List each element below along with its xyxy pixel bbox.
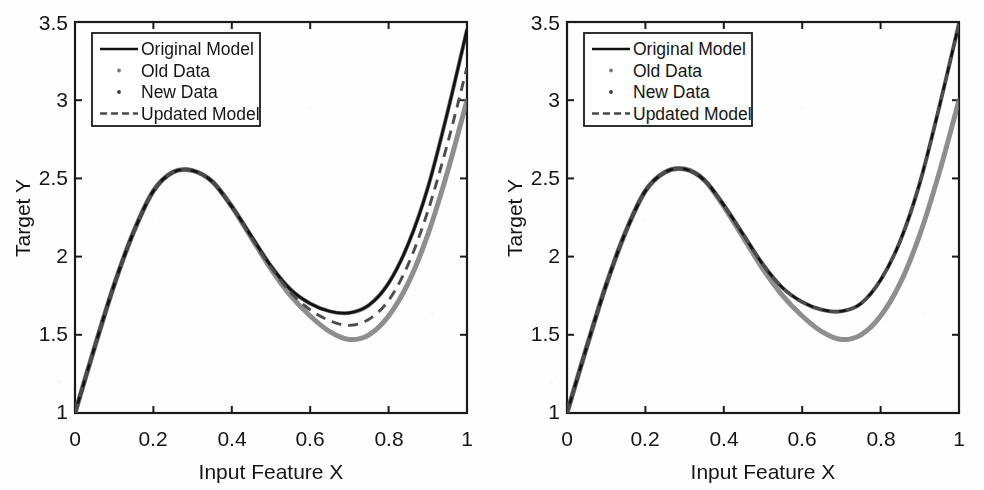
legend-item-label: New Data [633,82,710,102]
y-axis-title: Target Y [503,179,526,257]
figure-container: 3.5 3 2.5 2 1.5 1 0 0.2 0.4 0.6 0.8 1 In… [0,0,984,490]
y-tick-label: 3 [548,88,560,111]
legend-dot-icon [117,90,121,94]
y-tick-label: 1 [56,400,68,423]
x-tick-label: 1 [461,427,473,450]
y-tick-label: 2 [56,244,68,267]
right-panel-legend: Original ModelOld DataNew DataUpdated Mo… [584,33,752,126]
y-axis-title: Target Y [11,179,34,257]
legend-item-label: New Data [141,82,218,102]
x-tick-label: 0.4 [217,427,247,450]
x-axis-title: Input Feature X [199,460,344,483]
legend-item-label: Updated Model [633,104,752,124]
legend-dot-icon [609,69,613,73]
legend-dot-icon [609,90,613,94]
x-tick-label: 0.6 [295,427,324,450]
y-tick-label: 1 [548,400,560,423]
x-tick-label: 0.8 [374,427,403,450]
y-tick-label: 2.5 [39,166,68,189]
legend-item-label: Old Data [141,61,210,81]
y-tick-label: 3 [56,88,68,111]
legend-dot-icon [117,69,121,73]
x-tick-label: 0.2 [138,427,167,450]
y-tick-label: 1.5 [39,322,68,345]
legend-item-label: Old Data [633,61,702,81]
y-tick-label: 1.5 [531,322,560,345]
left-panel-plot: 3.5 3 2.5 2 1.5 1 0 0.2 0.4 0.6 0.8 1 In… [0,0,492,490]
y-tick-label: 2 [548,244,560,267]
left-panel: 3.5 3 2.5 2 1.5 1 0 0.2 0.4 0.6 0.8 1 In… [0,0,492,490]
series-curve-old-data [75,100,467,413]
left-panel-legend: Original ModelOld DataNew DataUpdated Mo… [92,33,260,126]
x-tick-label: 0.2 [630,427,659,450]
legend-item-label: Updated Model [141,104,260,124]
x-tick-label: 1 [953,427,965,450]
right-panel-plot: 3.5 3 2.5 2 1.5 1 0 0.2 0.4 0.6 0.8 1 In… [492,0,984,490]
series-curve-old-data [567,100,959,413]
legend-item-label: Original Model [141,39,254,59]
legend-item-label: Original Model [633,39,746,59]
x-tick-label: 0 [561,427,573,450]
y-tick-label: 2.5 [531,166,560,189]
x-tick-label: 0.6 [787,427,816,450]
x-tick-label: 0 [69,427,81,450]
right-panel: 3.5 3 2.5 2 1.5 1 0 0.2 0.4 0.6 0.8 1 In… [492,0,984,490]
x-tick-label: 0.8 [866,427,895,450]
y-tick-label: 3.5 [531,11,560,34]
x-tick-label: 0.4 [709,427,739,450]
y-tick-label: 3.5 [39,11,68,34]
x-axis-title: Input Feature X [691,460,836,483]
